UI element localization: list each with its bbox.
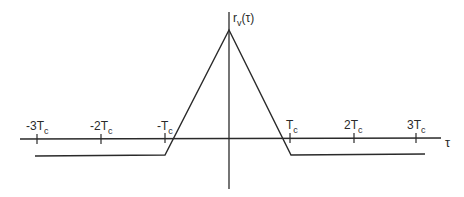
autocorrelation-diagram: -3Tc -2Tc -Tc Tc 2Tc 3Tc rv(τ) τ (0, 0, 464, 197)
tau-axis (20, 138, 441, 139)
y-axis-label: rv(τ) (233, 11, 254, 28)
tick-label: Tc (286, 118, 298, 135)
tick-label: 3Tc (407, 118, 426, 135)
tick-label: 2Tc (344, 118, 363, 135)
autocorrelation-curve (35, 30, 425, 156)
tick-label: -3Tc (26, 119, 49, 136)
x-axis-label: τ (445, 135, 451, 150)
tick-label: -2Tc (90, 119, 113, 136)
